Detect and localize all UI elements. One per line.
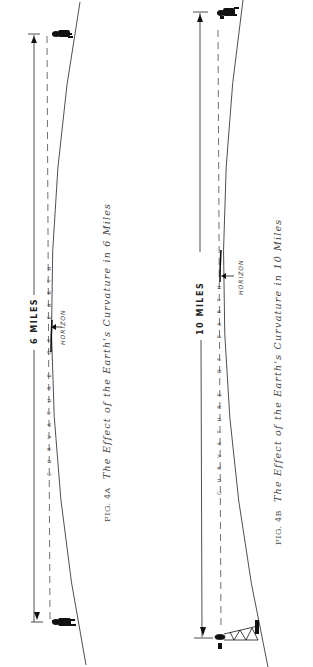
person-icon-top-4a [52, 30, 73, 38]
arrow-head-bottom-4a [34, 612, 40, 620]
horizon-label-4a: HORIZON [59, 310, 66, 346]
distance-label-4a: 6 MILES [30, 295, 39, 347]
caption-label-4b: FIG. 4B [274, 510, 283, 545]
person-icon-bottom-4a [52, 618, 76, 626]
earth-curvature-arc-4b [223, 0, 268, 667]
tower-icon-bottom-4b [215, 620, 259, 649]
arrow-head-bottom-4b [200, 627, 206, 636]
distance-label-4b: 10 MILES [196, 279, 205, 338]
arrow-head-top-4b [197, 14, 203, 22]
caption-title-4b: The Effect of the Earth's Curvature in 1… [272, 219, 283, 502]
caption-4b: FIG. 4BThe Effect of the Earth's Curvatu… [272, 219, 283, 545]
earth-curvature-figure: 6 MILES HORIZON CURVATURE OF EARTH FIG. … [0, 0, 313, 667]
person-icon-top-4b [217, 7, 239, 19]
caption-label-4a: FIG. 4A [103, 487, 112, 522]
curvature-label-4a: CURVATURE OF EARTH [46, 258, 52, 476]
caption-title-4a: The Effect of the Earth's Curvature in 6… [101, 203, 112, 479]
earth-curvature-arc-4a [51, 2, 86, 665]
horizon-label-4b: HORIZON [237, 260, 244, 296]
arrow-head-top-4a [31, 36, 37, 43]
curvature-label-4b: CURVATURE OF EARTH [216, 277, 222, 495]
caption-4a: FIG. 4AThe Effect of the Earth's Curvatu… [101, 203, 112, 522]
